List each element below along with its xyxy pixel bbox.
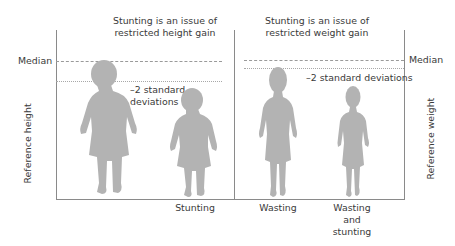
wasting-stunting-line3: stunting bbox=[322, 226, 382, 238]
stunted-child-silhouette bbox=[167, 89, 219, 199]
left-median-label: Median bbox=[18, 55, 52, 67]
left-axis-label: Reference height bbox=[22, 104, 33, 184]
wasted-stunted-child-silhouette bbox=[337, 87, 371, 199]
wasting-and-stunting-label: Wasting and stunting bbox=[322, 202, 382, 238]
left-y-axis bbox=[56, 30, 57, 200]
right-median-line bbox=[244, 60, 404, 61]
left-title-line2: restricted height gain bbox=[95, 27, 235, 39]
stunting-label: Stunting bbox=[160, 202, 230, 214]
wasting-stunting-line2: and bbox=[322, 214, 382, 226]
left-title-line1: Stunting is an issue of bbox=[95, 15, 235, 27]
wasting-label: Wasting bbox=[248, 202, 308, 214]
right-sd-label: –2 standard deviations bbox=[306, 72, 413, 84]
left-panel-title: Stunting is an issue of restricted heigh… bbox=[95, 15, 235, 39]
right-title-line1: Stunting is an issue of bbox=[262, 15, 372, 27]
reference-child-silhouette bbox=[75, 61, 141, 197]
panel-divider bbox=[234, 30, 235, 200]
right-axis-label: Reference weight bbox=[425, 100, 436, 180]
wasting-stunting-line1: Wasting bbox=[322, 202, 382, 214]
right-y-axis bbox=[404, 30, 405, 200]
right-title-line2: restricted weight gain bbox=[262, 27, 372, 39]
right-median-label: Median bbox=[409, 54, 443, 66]
right-panel-title: Stunting is an issue of restricted weigh… bbox=[262, 15, 372, 39]
wasted-child-silhouette bbox=[258, 68, 300, 199]
x-axis bbox=[56, 199, 405, 200]
